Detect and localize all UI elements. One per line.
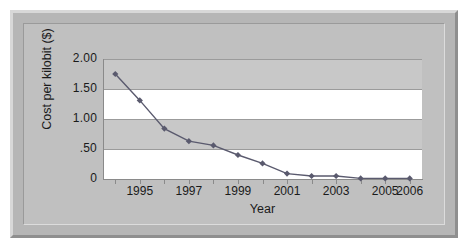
data-point-marker — [284, 171, 290, 177]
chart-figure: 2.001.501.00.500 19951997199920012003200… — [0, 0, 468, 248]
figure-frame-inner: 2.001.501.00.500 19951997199920012003200… — [23, 23, 445, 225]
data-point-marker — [186, 138, 192, 144]
data-point-marker — [358, 175, 364, 181]
figure-frame: 2.001.501.00.500 19951997199920012003200… — [10, 10, 458, 238]
data-point-marker — [235, 152, 241, 158]
data-point-marker — [333, 173, 339, 179]
data-point-marker — [259, 160, 265, 166]
data-series-line — [24, 24, 446, 226]
chart-plot-region: 2.001.501.00.500 19951997199920012003200… — [24, 24, 446, 226]
x-axis-title: Year — [103, 202, 422, 216]
data-point-marker — [210, 142, 216, 148]
data-point-marker — [382, 175, 388, 181]
data-point-marker — [407, 175, 413, 181]
y-axis-title: Cost per kilobit ($) — [40, 4, 54, 154]
data-point-marker — [308, 173, 314, 179]
